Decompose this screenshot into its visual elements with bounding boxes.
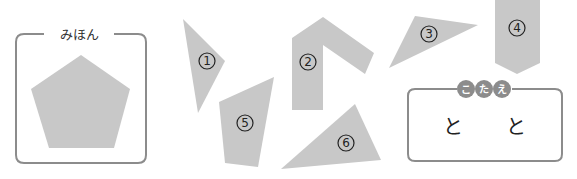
answer-badge: こ た え bbox=[457, 80, 511, 98]
piece-6[interactable]: 6 bbox=[281, 104, 381, 169]
sample-title: みほん bbox=[60, 27, 99, 42]
piece-1[interactable]: 1 bbox=[183, 19, 225, 113]
piece-6-number: 6 bbox=[342, 136, 350, 150]
piece-5-number: 5 bbox=[241, 116, 249, 130]
piece-6-shape[interactable] bbox=[281, 104, 381, 169]
piece-3-shape[interactable] bbox=[389, 16, 478, 68]
answer-box: こ た え と と bbox=[408, 80, 562, 161]
piece-1-number: 1 bbox=[203, 54, 211, 68]
piece-3[interactable]: 3 bbox=[389, 16, 478, 68]
sample-box: みほん bbox=[16, 27, 146, 163]
answer-text-1: と bbox=[443, 115, 463, 139]
worksheet-canvas: みほん 1 2 3 4 5 6 bbox=[0, 0, 577, 179]
piece-4[interactable]: 4 bbox=[495, 0, 540, 74]
sample-pentagon bbox=[31, 55, 130, 148]
piece-4-number: 4 bbox=[513, 21, 521, 35]
piece-2-number: 2 bbox=[304, 55, 312, 69]
badge-char-1: こ bbox=[461, 84, 471, 95]
piece-4-shape[interactable] bbox=[495, 0, 540, 74]
answer-frame bbox=[408, 89, 562, 161]
badge-char-2: た bbox=[479, 84, 489, 95]
piece-3-number: 3 bbox=[425, 27, 433, 41]
badge-char-3: え bbox=[497, 84, 507, 95]
piece-2[interactable]: 2 bbox=[292, 17, 374, 110]
answer-text-2: と bbox=[506, 115, 526, 139]
piece-5[interactable]: 5 bbox=[219, 77, 274, 167]
